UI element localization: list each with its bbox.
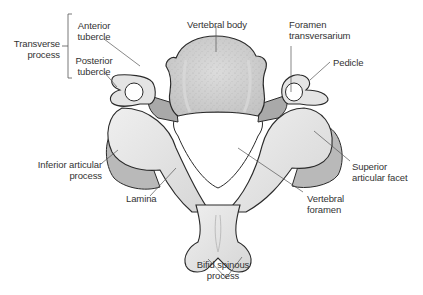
label-lamina: Lamina (126, 193, 157, 204)
label-vertebral-foramen: Vertebral foramen (307, 193, 344, 215)
leader-pedicle (310, 62, 330, 80)
label-superior-articular-facet: Superior articular facet (352, 161, 408, 183)
label-vertebral-body: Vertebral body (178, 19, 256, 30)
label-anterior-tubercle: Anterior tubercle (72, 20, 116, 42)
label-posterior-tubercle: Posterior tubercle (71, 55, 117, 77)
label-foramen-transversarium: Foramen transversarium (289, 19, 350, 41)
vertebra-illustration (0, 0, 423, 295)
label-transverse-process: Transverse process (12, 38, 60, 60)
label-bifid-spinous-process: Bifid spinous process (190, 259, 256, 281)
vertebra-diagram: Transverse process Anterior tubercle Pos… (0, 0, 423, 295)
label-pedicle: Pedicle (333, 57, 363, 68)
right-foramen-transversarium (286, 83, 303, 101)
left-foramen-transversarium (125, 83, 143, 101)
label-inferior-articular-process: Inferior articular process (22, 159, 102, 181)
